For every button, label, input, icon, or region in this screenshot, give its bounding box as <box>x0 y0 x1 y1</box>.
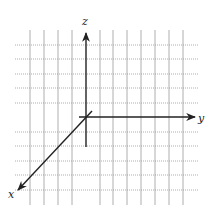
x-axis <box>18 111 92 190</box>
y-axis-label: y <box>197 112 205 125</box>
x-axis-label: x <box>8 188 15 201</box>
coordinate-diagram: z y x <box>0 0 214 213</box>
z-axis-label: z <box>81 15 88 28</box>
